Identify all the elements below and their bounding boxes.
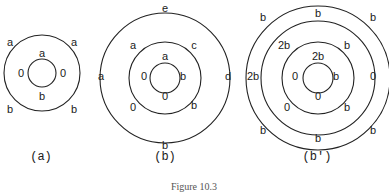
edge-label: b xyxy=(191,99,197,111)
edge-label: b xyxy=(315,132,321,144)
edge-label: b xyxy=(315,7,321,19)
edge-label: 0 xyxy=(315,90,321,102)
edge-label: a xyxy=(98,70,105,82)
edge-label: b xyxy=(344,39,350,51)
panel-b-caption: (b) xyxy=(154,150,176,164)
edge-label: b xyxy=(260,11,266,23)
ring-1 xyxy=(303,63,333,93)
edge-label: 2b xyxy=(278,39,290,51)
circle-diagram-figure: a00baabb a0b0ac0beadb 2b0b02bb0bb2b0bbbb… xyxy=(0,0,389,194)
figure-caption: Figure 10.3 xyxy=(171,181,217,192)
ring-3 xyxy=(100,13,230,143)
edge-label: c xyxy=(191,39,197,51)
ring-1 xyxy=(150,63,180,93)
edge-label: e xyxy=(162,2,168,14)
edge-label: d xyxy=(225,70,231,82)
edge-label: b xyxy=(370,124,376,136)
edge-label: 2b xyxy=(312,50,324,62)
edge-label: b xyxy=(180,70,186,82)
edge-label: b xyxy=(260,124,266,136)
panel-b-prime: 2b0b02bb0bb2b0bbbbb xyxy=(246,6,389,150)
panel-a-caption: (a) xyxy=(30,150,52,164)
edge-label: a xyxy=(7,36,14,48)
edge-label: 0 xyxy=(292,70,298,82)
edge-label: a xyxy=(130,39,137,51)
edge-label: a xyxy=(71,36,78,48)
panel-a: a00baabb xyxy=(4,35,80,115)
edge-label: 0 xyxy=(18,67,24,79)
edge-label: a xyxy=(162,50,169,62)
edge-label: 0 xyxy=(370,70,376,82)
edge-label: b xyxy=(7,103,13,115)
edge-label: b xyxy=(39,90,45,102)
ring-4 xyxy=(246,6,389,150)
edge-label: b xyxy=(344,101,350,113)
edge-label: b xyxy=(333,70,339,82)
edge-label: b xyxy=(370,11,376,23)
edge-label: 2b xyxy=(247,70,259,82)
edge-label: 0 xyxy=(162,90,168,102)
edge-label: 0 xyxy=(284,101,290,113)
edge-label: 0 xyxy=(141,70,147,82)
edge-label: 0 xyxy=(60,67,66,79)
panel-b-prime-caption: (b′) xyxy=(303,150,332,164)
edge-label: b xyxy=(71,103,77,115)
edge-label: 0 xyxy=(130,101,136,113)
ring-1 xyxy=(28,59,56,87)
edge-label: a xyxy=(39,47,46,59)
panel-b: a0b0ac0beadb xyxy=(98,2,231,151)
